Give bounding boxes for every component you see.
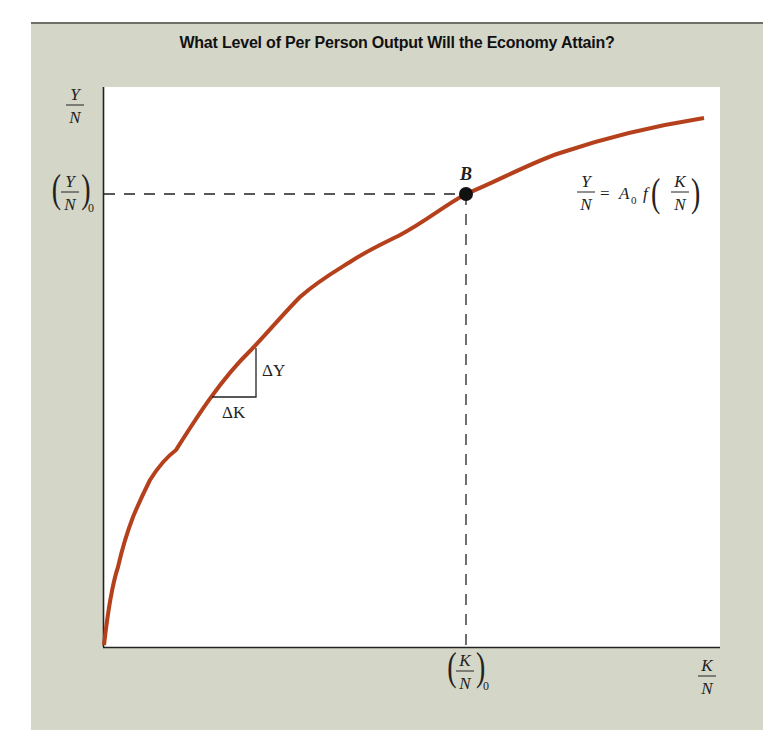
- y0-tick-label: ( Y N ) 0: [52, 166, 94, 215]
- svg-text:): ): [691, 170, 700, 215]
- svg-text:K: K: [673, 172, 687, 191]
- point-b-label: B: [459, 164, 472, 184]
- svg-text:N: N: [700, 679, 714, 698]
- y-axis-label: Y N: [66, 85, 84, 127]
- svg-text:N: N: [63, 195, 77, 214]
- plot-area: [103, 87, 720, 647]
- svg-text:N: N: [579, 195, 593, 214]
- svg-text:A: A: [618, 184, 630, 203]
- svg-text:Y: Y: [70, 85, 81, 104]
- x-axis-label: K N: [698, 656, 716, 698]
- x0-tick-label: ( K N ) 0: [447, 644, 489, 693]
- svg-text:Y: Y: [581, 172, 592, 191]
- svg-text:K: K: [700, 656, 714, 675]
- svg-text:0: 0: [88, 201, 94, 215]
- svg-text:0: 0: [631, 194, 637, 206]
- chart-canvas: ΔY ΔK B Y N ( Y N ) 0 ( K N ) 0 K N Y N …: [0, 0, 763, 745]
- svg-text:0: 0: [483, 679, 489, 693]
- svg-text:N: N: [458, 674, 472, 693]
- delta-y-label: ΔY: [262, 361, 285, 380]
- svg-text:=: =: [600, 184, 610, 203]
- svg-text:N: N: [673, 195, 687, 214]
- point-b-marker: [459, 187, 473, 201]
- delta-k-label: ΔK: [222, 403, 246, 422]
- svg-text:K: K: [458, 651, 472, 670]
- svg-text:(: (: [447, 644, 456, 689]
- svg-text:N: N: [68, 108, 82, 127]
- svg-text:(: (: [651, 170, 660, 215]
- svg-text:Y: Y: [65, 172, 76, 191]
- svg-text:(: (: [52, 166, 61, 211]
